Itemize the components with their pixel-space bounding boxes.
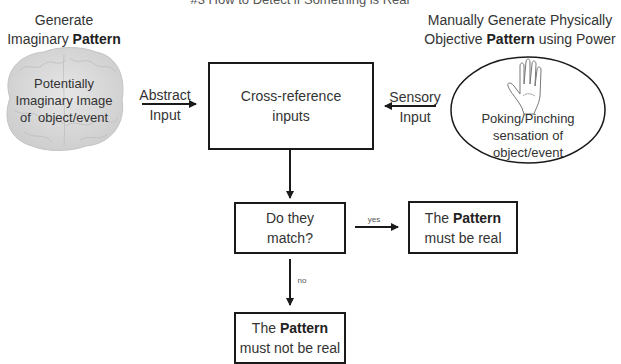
abstract-input-label-top: Abstract bbox=[130, 87, 200, 104]
pattern-not-real-line1: The Pattern bbox=[240, 318, 340, 338]
cross-reference-line1: Cross-reference bbox=[241, 86, 341, 106]
decision-line2: match? bbox=[266, 228, 314, 248]
pattern-not-real-text: The bbox=[252, 320, 280, 336]
pattern-real-line1: The Pattern bbox=[424, 208, 501, 228]
hand-label-line: object/event bbox=[470, 144, 586, 161]
pattern-real-line2: must be real bbox=[424, 228, 501, 248]
sensory-input-label-top: Sensory bbox=[384, 89, 446, 106]
brain-label-line: Imaginary Image bbox=[8, 92, 120, 109]
pattern-real-text: The bbox=[425, 210, 453, 226]
hand-label-line: Poking/Pinching bbox=[470, 110, 586, 127]
no-label: no bbox=[294, 272, 310, 289]
hand-label-line: sensation of bbox=[470, 127, 586, 144]
abstract-input-label-bottom: Input bbox=[130, 107, 200, 124]
cross-reference-line2: inputs bbox=[241, 106, 341, 126]
decision-box: Do they match? bbox=[234, 202, 346, 254]
brain-label-line: Potentially bbox=[8, 75, 120, 92]
brain-label-line: of object/event bbox=[8, 109, 120, 126]
pattern-real-box: The Pattern must be real bbox=[408, 201, 518, 254]
pattern-not-real-bold: Pattern bbox=[280, 320, 328, 336]
hand-label: Poking/Pinching sensation of object/even… bbox=[470, 110, 586, 161]
cross-reference-box: Cross-reference inputs bbox=[208, 62, 374, 150]
pattern-not-real-line2: must not be real bbox=[240, 338, 340, 358]
pattern-real-bold: Pattern bbox=[453, 210, 501, 226]
decision-line1: Do they bbox=[266, 208, 314, 228]
pattern-not-real-box: The Pattern must not be real bbox=[234, 312, 346, 364]
brain-label: Potentially Imaginary Image of object/ev… bbox=[8, 75, 120, 126]
yes-label: yes bbox=[362, 211, 386, 228]
sensory-input-label-bottom: Input bbox=[384, 109, 446, 126]
